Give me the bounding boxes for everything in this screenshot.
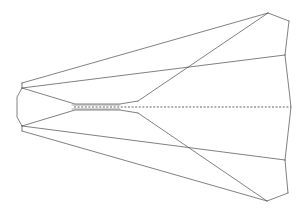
wireframe-figure: [0, 0, 306, 214]
canvas-background: [0, 0, 306, 214]
drawing-canvas: [0, 0, 306, 214]
